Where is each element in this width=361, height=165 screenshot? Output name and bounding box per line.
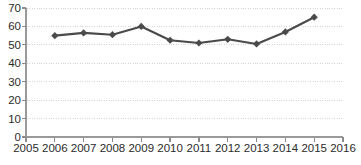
line-chart: 010203040506070 200520062007200820092010…: [0, 0, 361, 165]
x-tick-label-2005: 2005: [13, 142, 39, 154]
y-tick-label-50: 50: [8, 39, 21, 51]
x-tick-label-2015: 2015: [301, 142, 327, 154]
x-tick-label-2011: 2011: [187, 142, 212, 154]
y-tick-label-20: 20: [8, 94, 21, 106]
y-tick-label-30: 30: [8, 76, 21, 88]
y-tick-label-40: 40: [8, 57, 21, 69]
x-tick-label-2010: 2010: [157, 142, 183, 154]
y-tick-label-70: 70: [8, 2, 21, 14]
chart-background: [0, 0, 361, 165]
x-tick-label-2012: 2012: [215, 142, 241, 154]
x-tick-label-2009: 2009: [128, 142, 154, 154]
x-tick-label-2016: 2016: [330, 142, 356, 154]
x-tick-label-2008: 2008: [100, 142, 126, 154]
y-tick-label-60: 60: [8, 20, 21, 32]
x-tick-label-2007: 2007: [71, 142, 97, 154]
x-tick-label-2013: 2013: [244, 142, 270, 154]
x-tick-label-2006: 2006: [42, 142, 68, 154]
chart-canvas: 010203040506070 200520062007200820092010…: [0, 0, 361, 165]
y-tick-label-10: 10: [8, 113, 21, 125]
x-tick-label-2014: 2014: [273, 142, 299, 154]
